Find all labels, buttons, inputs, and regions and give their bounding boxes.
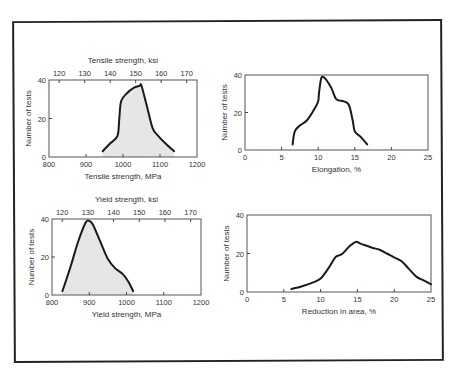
x-tick-label-elongation: 10 <box>314 153 322 162</box>
chart-reduction: 051015202502040Reduction in area, %Numbe… <box>222 211 435 316</box>
x-axis-title-tensile: Tensile strength, MPa <box>85 172 162 181</box>
x2-tick-label-tensile: 140 <box>104 69 117 78</box>
y-tick-label-reduction: 0 <box>240 288 244 297</box>
x2-axis-title-yield: Yield strength, ksi <box>95 195 158 204</box>
area-fill-tensile <box>103 86 174 157</box>
x-tick-label-yield: 900 <box>83 298 96 307</box>
y-tick-label-tensile: 40 <box>38 76 46 85</box>
series-line-elongation <box>293 77 368 145</box>
x-tick-label-yield: 1000 <box>118 298 135 307</box>
chart-yield: 8009001000110012000204012013014015016017… <box>27 195 209 319</box>
x2-tick-label-yield: 120 <box>56 208 69 217</box>
chart-elongation: 051015202502040Elongation, %Number of te… <box>220 71 432 174</box>
x-tick-label-tensile: 1000 <box>115 160 132 169</box>
figure-canvas: 8009001000110012000204012013014015016017… <box>0 0 457 368</box>
x2-tick-label-tensile: 150 <box>129 69 142 78</box>
y-tick-label-elongation: 0 <box>238 146 242 155</box>
y-tick-label-elongation: 40 <box>234 71 242 80</box>
plot-area-reduction <box>247 215 431 292</box>
x2-tick-label-tensile: 160 <box>155 69 168 78</box>
x-tick-label-elongation: 15 <box>351 153 359 162</box>
y-tick-label-elongation: 20 <box>234 109 242 118</box>
x-tick-label-elongation: 5 <box>280 153 284 162</box>
y-tick-label-tensile: 0 <box>42 153 46 162</box>
y-tick-label-yield: 40 <box>41 215 49 224</box>
x-tick-label-tensile: 1200 <box>189 160 206 169</box>
x2-tick-label-yield: 150 <box>133 208 146 217</box>
chart-tensile: 8009001000110012000204012013014015016017… <box>24 56 205 181</box>
x-tick-label-reduction: 0 <box>245 295 249 304</box>
series-line-reduction <box>291 242 431 289</box>
x-tick-label-reduction: 5 <box>282 295 286 304</box>
x-tick-label-elongation: 0 <box>243 153 247 162</box>
x-tick-label-yield: 1200 <box>193 298 210 307</box>
x2-tick-label-tensile: 130 <box>78 69 91 78</box>
y-tick-label-reduction: 40 <box>236 211 244 220</box>
x2-tick-label-yield: 170 <box>184 208 197 217</box>
plot-area-elongation <box>245 75 428 150</box>
x-axis-title-elongation: Elongation, % <box>312 165 361 174</box>
x-tick-label-reduction: 10 <box>316 295 324 304</box>
y-tick-label-yield: 20 <box>41 253 49 262</box>
x-tick-label-reduction: 15 <box>353 295 361 304</box>
y-axis-title-elongation: Number of tests <box>220 84 229 140</box>
x-tick-label-reduction: 25 <box>427 295 435 304</box>
x-axis-title-yield: Yield strength, MPa <box>92 310 162 319</box>
y-tick-label-reduction: 20 <box>236 250 244 259</box>
x2-tick-label-yield: 140 <box>107 208 120 217</box>
x2-tick-label-tensile: 120 <box>53 69 66 78</box>
x-tick-label-yield: 1100 <box>156 298 172 307</box>
x-tick-label-elongation: 25 <box>424 153 432 162</box>
x-tick-label-tensile: 1100 <box>152 160 168 169</box>
y-axis-title-yield: Number of tests <box>27 229 36 285</box>
y-tick-label-yield: 0 <box>45 291 49 300</box>
x2-tick-label-yield: 160 <box>159 208 172 217</box>
x2-tick-label-tensile: 170 <box>180 69 193 78</box>
x2-tick-label-yield: 130 <box>82 208 95 217</box>
x-axis-title-reduction: Reduction in area, % <box>302 307 376 316</box>
y-tick-label-tensile: 20 <box>38 115 46 124</box>
y-axis-title-tensile: Number of tests <box>24 90 33 146</box>
x-tick-label-tensile: 900 <box>80 160 93 169</box>
x-tick-label-elongation: 20 <box>387 153 395 162</box>
y-axis-title-reduction: Number of tests <box>222 225 231 281</box>
x2-axis-title-tensile: Tensile strength, ksi <box>88 56 158 65</box>
x-tick-label-reduction: 20 <box>390 295 398 304</box>
